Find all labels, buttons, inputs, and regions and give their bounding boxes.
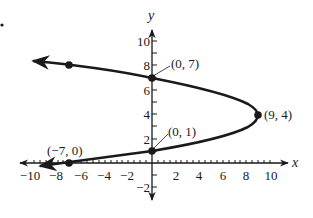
label-0-1: (0, 1): [168, 124, 196, 139]
svg-text:8: 8: [144, 58, 151, 73]
y-ticks: [152, 41, 157, 187]
svg-text:−2: −2: [136, 180, 150, 195]
point-0-1: [148, 147, 156, 155]
svg-text:10: 10: [265, 168, 278, 183]
svg-text:10: 10: [137, 34, 150, 49]
parabola-graph: −10 −8 −6 −4 −2 2 4 6 8 10 10 8 6 4 2 −2…: [0, 0, 313, 218]
svg-text:2: 2: [144, 132, 151, 147]
label-0-7: (0, 7): [171, 56, 199, 71]
svg-text:−6: −6: [74, 168, 88, 183]
svg-text:8: 8: [243, 168, 250, 183]
point-neg7-8: [65, 61, 73, 69]
svg-text:2: 2: [173, 168, 180, 183]
data-points: [65, 61, 262, 167]
svg-text:−8: −8: [49, 168, 63, 183]
svg-text:4: 4: [196, 168, 203, 183]
y-tick-labels: 10 8 6 4 2 −2: [136, 34, 150, 195]
svg-text:−10: −10: [20, 168, 40, 183]
point-9-4: [254, 111, 262, 119]
svg-text:4: 4: [144, 107, 151, 122]
label-neg7-0: (−7, 0): [47, 143, 83, 158]
svg-text:−4: −4: [97, 168, 111, 183]
svg-text:6: 6: [144, 83, 151, 98]
stray-dot: [0, 23, 3, 26]
svg-text:−2: −2: [120, 168, 134, 183]
x-axis-label: x: [291, 155, 299, 170]
point-neg7-0: [65, 159, 73, 167]
y-axis-label: y: [146, 8, 155, 23]
svg-text:6: 6: [220, 168, 227, 183]
label-9-4: (9, 4): [264, 107, 292, 122]
